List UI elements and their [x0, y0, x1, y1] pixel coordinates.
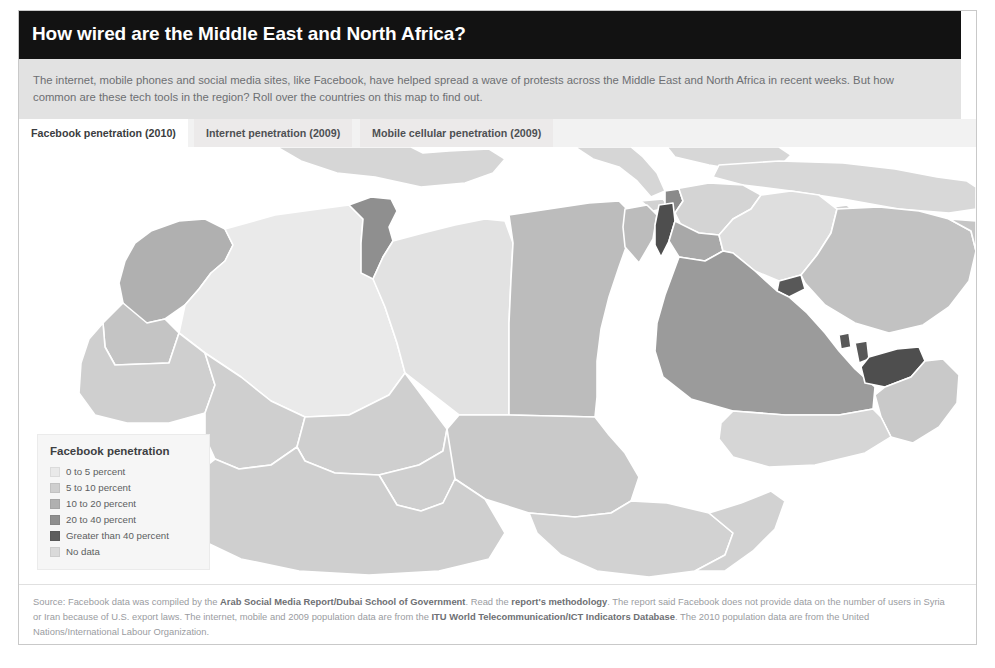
region-bahrain[interactable]	[839, 333, 851, 349]
source-link-arab-social-media-report[interactable]: Arab Social Media Report/Dubai School of…	[220, 596, 465, 607]
legend-swatch-20-to-40	[50, 515, 60, 525]
legend-swatch-10-to-20	[50, 499, 60, 509]
map-legend: Facebook penetration 0 to 5 percent 5 to…	[37, 434, 210, 570]
legend-label-20-to-40: 20 to 40 percent	[66, 514, 136, 525]
legend-label-no-data: No data	[66, 546, 100, 557]
legend-swatch-0-to-5	[50, 467, 60, 477]
page-root: How wired are the Middle East and North …	[0, 0, 995, 668]
legend-swatch-5-to-10	[50, 483, 60, 493]
source-link-report-methodology[interactable]: report's methodology	[511, 596, 607, 607]
legend-item-20-to-40: 20 to 40 percent	[50, 512, 199, 527]
intro-panel: The internet, mobile phones and social m…	[19, 59, 961, 119]
tab-bar: Facebook penetration (2010) Internet pen…	[19, 119, 976, 148]
legend-title: Facebook penetration	[50, 445, 199, 457]
legend-label-greater-than-40: Greater than 40 percent	[66, 530, 169, 541]
legend-label-5-to-10: 5 to 10 percent	[66, 482, 131, 493]
legend-item-0-to-5: 0 to 5 percent	[50, 464, 199, 479]
source-mid-1: . Read the	[465, 596, 511, 607]
source-link-itu-database[interactable]: ITU World Telecommunication/ICT Indicato…	[432, 611, 675, 622]
tab-facebook-penetration[interactable]: Facebook penetration (2010)	[19, 119, 188, 147]
legend-item-10-to-20: 10 to 20 percent	[50, 496, 199, 511]
tab-mobile-cellular-penetration[interactable]: Mobile cellular penetration (2009)	[360, 119, 553, 147]
legend-label-0-to-5: 0 to 5 percent	[66, 466, 125, 477]
tab-internet-penetration[interactable]: Internet penetration (2009)	[194, 119, 352, 147]
legend-item-no-data: No data	[50, 544, 199, 559]
legend-item-5-to-10: 5 to 10 percent	[50, 480, 199, 495]
legend-item-greater-than-40: Greater than 40 percent	[50, 528, 199, 543]
widget-frame: How wired are the Middle East and North …	[18, 10, 977, 645]
legend-swatch-no-data	[50, 547, 60, 557]
source-prefix: Source: Facebook data was compiled by th…	[33, 596, 220, 607]
page-title: How wired are the Middle East and North …	[32, 23, 466, 45]
choropleth-map[interactable]: Facebook penetration 0 to 5 percent 5 to…	[19, 147, 976, 584]
legend-swatch-greater-than-40	[50, 531, 60, 541]
intro-text: The internet, mobile phones and social m…	[33, 72, 933, 106]
source-text: Source: Facebook data was compiled by th…	[33, 594, 953, 639]
source-footer: Source: Facebook data was compiled by th…	[19, 584, 976, 645]
legend-label-10-to-20: 10 to 20 percent	[66, 498, 136, 509]
title-bar: How wired are the Middle East and North …	[19, 11, 961, 59]
